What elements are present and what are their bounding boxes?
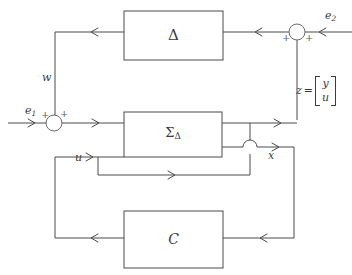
signal-z-symbol: z (296, 84, 302, 97)
sum-e2-sign-left: + (282, 33, 290, 43)
wire-hop-arc (243, 140, 257, 147)
signal-w-label: w (42, 72, 51, 83)
signal-z-equals: = (304, 84, 313, 97)
block-diagram-canvas: Δ ΣΔ C e1 e2 w u x z = y u + + + + (0, 0, 352, 275)
sum-e1-sign-left: + (41, 110, 49, 120)
input-signal-e2-label: e2 (325, 10, 336, 23)
z-vector-entry-u: u (322, 91, 329, 105)
input-signal-e1-label: e1 (25, 105, 36, 118)
plant-block-label-sub: Δ (174, 131, 180, 141)
signal-e2-subscript: 2 (332, 14, 337, 23)
signal-e1-subscript: 1 (32, 109, 37, 118)
signal-x-label: x (268, 150, 274, 161)
plant-block-label: ΣΔ (124, 126, 222, 141)
controller-block-label: C (124, 232, 223, 246)
z-vector-matrix: y u (315, 76, 336, 106)
z-vector-entry-y: y (322, 77, 328, 91)
sum-e1-sign-top: + (60, 109, 68, 119)
signal-u-label: u (75, 152, 82, 163)
bracket-right (331, 76, 336, 106)
sum-e2-sign-right: + (305, 33, 313, 43)
summing-junction-e2-circle[interactable] (289, 24, 305, 40)
uncertainty-block-label: Δ (124, 28, 223, 43)
signal-z-vector-label: z = y u (296, 76, 336, 106)
z-vector-entries: y u (320, 76, 331, 106)
